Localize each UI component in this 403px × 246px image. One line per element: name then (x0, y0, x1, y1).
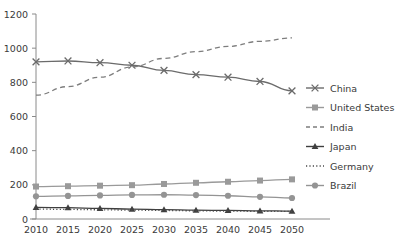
line-chart: 020040060080010001200 201020152020202520… (0, 0, 403, 246)
legend-item-brazil[interactable]: Brazil (306, 180, 357, 191)
data-point (225, 193, 231, 199)
data-point (129, 192, 135, 198)
legend-label: India (330, 122, 353, 133)
y-tick-label: 1200 (4, 9, 28, 20)
legend-marker (312, 105, 318, 111)
data-point (257, 194, 263, 200)
x-tick-label: 2025 (120, 224, 144, 235)
data-point (257, 178, 263, 184)
data-point (161, 192, 167, 198)
y-axis-group: 020040060080010001200 (4, 9, 36, 225)
y-tick-label: 0 (22, 214, 28, 225)
legend-item-china[interactable]: China (306, 83, 357, 94)
data-point (129, 182, 135, 188)
legend-item-japan[interactable]: Japan (306, 141, 357, 152)
y-axis-tick-labels: 020040060080010001200 (4, 9, 28, 225)
x-tick-label: 2040 (216, 224, 240, 235)
x-tick-label: 2020 (88, 224, 112, 235)
legend-label: United States (330, 102, 394, 113)
series-china (33, 58, 296, 95)
x-axis-group: 201020152020202520302035204020452050 (24, 219, 330, 235)
y-tick-label: 400 (10, 145, 28, 156)
series-united-states (33, 176, 295, 189)
y-tick-label: 1000 (4, 43, 28, 54)
data-point (33, 184, 39, 190)
legend-item-united-states[interactable]: United States (306, 102, 394, 113)
series-japan (33, 204, 296, 214)
x-tick-label: 2030 (152, 224, 176, 235)
y-tick-label: 200 (10, 179, 28, 190)
legend-item-india[interactable]: India (306, 122, 353, 133)
data-point (161, 181, 167, 187)
y-tick-label: 800 (10, 77, 28, 88)
legend-label: Brazil (330, 180, 357, 191)
x-tick-label: 2015 (56, 224, 80, 235)
chart-legend: ChinaUnited StatesIndiaJapanGermanyBrazi… (306, 83, 394, 192)
data-point (289, 195, 295, 201)
series-line (36, 38, 292, 95)
series-india (36, 38, 292, 95)
data-point (97, 183, 103, 189)
chart-canvas: 020040060080010001200 201020152020202520… (0, 0, 403, 246)
x-tick-label: 2045 (248, 224, 272, 235)
x-axis-tick-labels: 201020152020202520302035204020452050 (24, 224, 304, 235)
x-tick-label: 2035 (184, 224, 208, 235)
series-layer (33, 38, 296, 214)
data-point (65, 183, 71, 189)
data-point (225, 179, 231, 185)
data-point (97, 192, 103, 198)
series-line (36, 61, 292, 91)
data-point (65, 193, 71, 199)
data-point (33, 193, 39, 199)
legend-item-germany[interactable]: Germany (306, 161, 374, 172)
legend-marker (312, 182, 318, 188)
data-point (193, 192, 199, 198)
data-point (289, 176, 295, 182)
series-brazil (33, 192, 295, 201)
x-tick-label: 2050 (280, 224, 304, 235)
legend-label: China (330, 83, 357, 94)
legend-label: Japan (329, 141, 357, 152)
x-tick-label: 2010 (24, 224, 48, 235)
y-tick-label: 600 (10, 111, 28, 122)
data-point (193, 180, 199, 186)
legend-label: Germany (330, 161, 374, 172)
